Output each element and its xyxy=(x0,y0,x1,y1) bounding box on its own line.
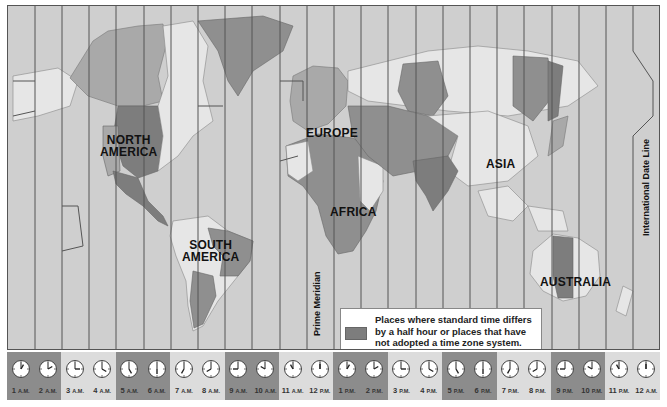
time-zone-cell: 4 P.M. xyxy=(415,352,442,400)
time-zone-cell: 11 A.M. xyxy=(279,352,306,400)
clock-icon xyxy=(229,360,247,378)
label-asia: ASIA xyxy=(486,158,515,170)
time-zone-cell: 12 P.M. xyxy=(306,352,333,400)
time-zone-cell: 11 P.M. xyxy=(605,352,632,400)
clock-icon xyxy=(420,360,438,378)
time-label: 9 A.M. xyxy=(225,386,252,395)
time-zone-cell: 10 A.M. xyxy=(252,352,279,400)
clock-icon xyxy=(501,360,519,378)
time-label: 4 P.M. xyxy=(415,386,442,395)
time-zone-cell: 8 P.M. xyxy=(524,352,551,400)
time-zone-cell: 7 A.M. xyxy=(170,352,197,400)
clock-icon xyxy=(284,360,302,378)
time-zone-cell: 4 A.M. xyxy=(89,352,116,400)
time-zone-cell: 10 P.M. xyxy=(578,352,605,400)
time-zone-cell: 12 A.M. xyxy=(633,352,660,400)
time-label: 3 P.M. xyxy=(388,386,415,395)
time-label: 2 A.M. xyxy=(34,386,61,395)
label-north-america: NORTHAMERICA xyxy=(100,134,157,158)
clock-icon xyxy=(528,360,546,378)
clock-icon xyxy=(583,360,601,378)
time-label: 11 P.M. xyxy=(605,386,632,395)
clock-icon xyxy=(474,360,492,378)
clock-icon xyxy=(556,360,574,378)
time-label: 8 P.M. xyxy=(524,386,551,395)
time-zone-cell: 2 P.M. xyxy=(361,352,388,400)
clock-strip: 1 A.M.2 A.M.3 A.M.4 A.M.5 A.M.6 A.M.7 A.… xyxy=(7,352,660,400)
clock-icon xyxy=(66,360,84,378)
time-zone-cell: 2 A.M. xyxy=(34,352,61,400)
legend-text: Places where standard time differs by a … xyxy=(375,314,532,349)
clock-icon xyxy=(93,360,111,378)
time-label: 10 A.M. xyxy=(252,386,279,395)
time-label: 9 P.M. xyxy=(551,386,578,395)
time-zone-cell: 6 A.M. xyxy=(143,352,170,400)
clock-icon xyxy=(39,360,57,378)
clock-icon xyxy=(311,360,329,378)
time-label: 7 P.M. xyxy=(497,386,524,395)
time-label: 6 A.M. xyxy=(143,386,170,395)
label-south-america: SOUTHAMERICA xyxy=(182,239,239,263)
time-label: 6 P.M. xyxy=(469,386,496,395)
time-label: 10 P.M. xyxy=(578,386,605,395)
time-zone-cell: 3 A.M. xyxy=(61,352,88,400)
time-label: 8 A.M. xyxy=(197,386,224,395)
time-label: 2 P.M. xyxy=(361,386,388,395)
prime-meridian-label: Prime Meridian xyxy=(312,271,322,336)
label-africa: AFRICA xyxy=(330,206,377,218)
time-zone-cell: 5 P.M. xyxy=(442,352,469,400)
clock-icon xyxy=(447,360,465,378)
time-label: 1 P.M. xyxy=(333,386,360,395)
clock-icon xyxy=(392,360,410,378)
time-zone-cell: 9 P.M. xyxy=(551,352,578,400)
clock-icon xyxy=(256,360,274,378)
time-zone-cell: 6 P.M. xyxy=(469,352,496,400)
time-label: 11 A.M. xyxy=(279,386,306,395)
world-time-zone-map: NORTHAMERICA SOUTHAMERICA EUROPE AFRICA … xyxy=(7,5,660,350)
time-zone-cell: 9 A.M. xyxy=(225,352,252,400)
time-label: 12 A.M. xyxy=(633,386,660,395)
legend-swatch xyxy=(345,327,367,340)
time-label: 5 P.M. xyxy=(442,386,469,395)
clock-icon xyxy=(148,360,166,378)
clock-icon xyxy=(202,360,220,378)
clock-icon xyxy=(610,360,628,378)
date-line-label: International Date Line xyxy=(641,139,651,236)
clock-icon xyxy=(637,360,655,378)
time-zone-cell: 5 A.M. xyxy=(116,352,143,400)
time-label: 4 A.M. xyxy=(89,386,116,395)
time-label: 7 A.M. xyxy=(170,386,197,395)
clock-icon xyxy=(338,360,356,378)
clock-icon xyxy=(365,360,383,378)
legend: Places where standard time differs by a … xyxy=(340,308,542,350)
clock-icon xyxy=(175,360,193,378)
time-zone-cell: 1 P.M. xyxy=(333,352,360,400)
time-label: 5 A.M. xyxy=(116,386,143,395)
clock-icon xyxy=(120,360,138,378)
time-label: 3 A.M. xyxy=(61,386,88,395)
label-australia: AUSTRALIA xyxy=(540,276,611,288)
clock-icon xyxy=(12,360,30,378)
time-zone-cell: 1 A.M. xyxy=(7,352,34,400)
time-zone-cell: 7 P.M. xyxy=(497,352,524,400)
map-graphic xyxy=(8,6,660,350)
time-zone-cell: 3 P.M. xyxy=(388,352,415,400)
time-label: 12 P.M. xyxy=(306,386,333,395)
time-zone-cell: 8 A.M. xyxy=(197,352,224,400)
time-label: 1 A.M. xyxy=(7,386,34,395)
label-europe: EUROPE xyxy=(306,127,358,139)
